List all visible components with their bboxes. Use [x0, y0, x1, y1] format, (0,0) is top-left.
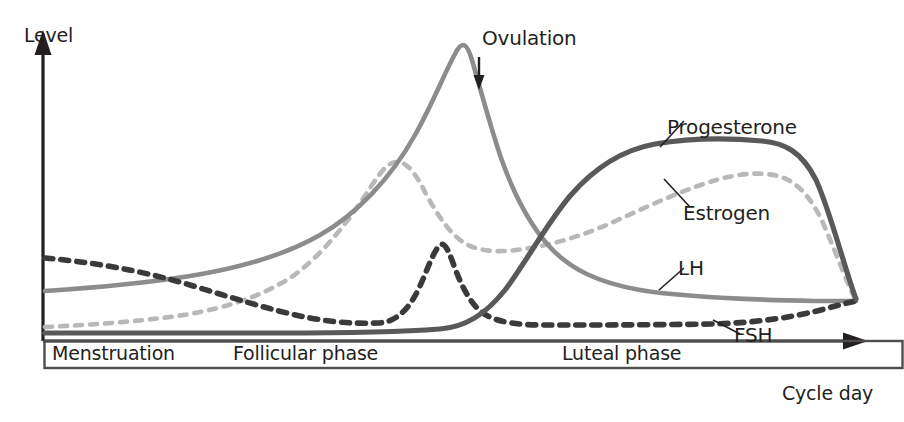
series-label-fsh: FSH — [734, 325, 772, 345]
curve-progesterone — [45, 139, 856, 333]
axes-group — [35, 30, 869, 350]
series-label-lh: LH — [678, 258, 704, 278]
cycle-hormone-chart: Level Cycle day Ovulation Progesterone E… — [0, 0, 904, 422]
x-axis-label: Cycle day — [782, 384, 873, 403]
y-axis-label: Level — [24, 26, 73, 45]
ovulation-annotation-label: Ovulation — [482, 28, 577, 48]
phase-label-follicular: Follicular phase — [233, 344, 378, 363]
phase-label-luteal: Luteal phase — [562, 344, 681, 363]
series-label-progesterone: Progesterone — [667, 117, 797, 137]
series-label-estrogen: Estrogen — [683, 203, 770, 223]
curve-fsh — [45, 244, 856, 325]
curve-estrogen — [45, 162, 856, 327]
phase-label-menstruation: Menstruation — [52, 344, 175, 363]
